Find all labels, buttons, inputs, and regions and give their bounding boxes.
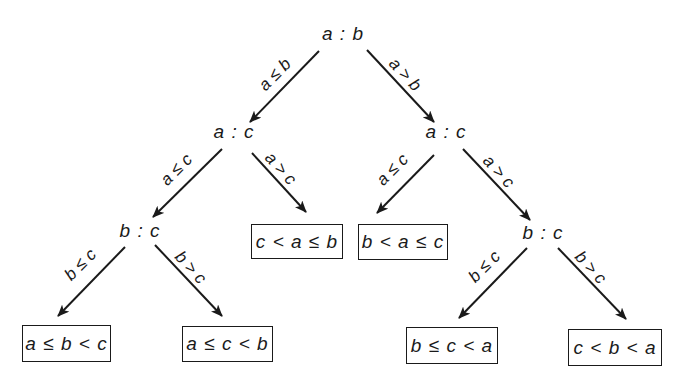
- leaf-a-le-b-lt-c: a ≤ b < c: [22, 325, 111, 362]
- leaf-b-lt-a-le-c: b < a ≤ c: [358, 224, 448, 260]
- leaf-a-le-c-lt-b: a ≤ c < b: [182, 326, 273, 362]
- node-right-bc: b : c: [523, 223, 564, 242]
- leaf-c-lt-b-lt-a: c < b < a: [568, 329, 662, 366]
- node-left-ac: a : c: [214, 122, 255, 141]
- leaf-b-le-c-lt-a: b ≤ c < a: [406, 327, 498, 364]
- node-root: a : b: [322, 24, 364, 43]
- leaf-c-lt-a-le-b: c < a ≤ b: [251, 224, 343, 259]
- node-right-ac: a : c: [426, 122, 467, 141]
- node-left-bc: b : c: [120, 221, 161, 240]
